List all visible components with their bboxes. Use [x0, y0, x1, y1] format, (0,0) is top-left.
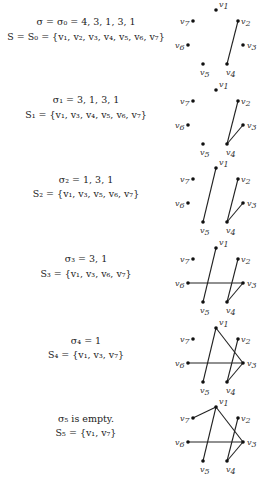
vertex-label-v7: v7 [180, 335, 191, 346]
vertex-label-v5: v5 [200, 306, 210, 317]
vertex-label-v1: v1 [219, 397, 229, 408]
vertex-v6 [186, 43, 190, 47]
vertex-v6 [186, 123, 190, 127]
vertex-v4 [225, 142, 229, 146]
vertex-label-v1: v1 [219, 0, 229, 11]
set-label: S₄ = {v₁, v₃, v₇} [0, 348, 172, 362]
vertex-label-v6: v6 [175, 359, 185, 370]
vertex-v2 [236, 416, 240, 420]
vertex-label-v2: v2 [241, 414, 251, 425]
vertex-label-v7: v7 [180, 255, 191, 266]
vertex-v6 [186, 201, 190, 205]
vertex-label-v6: v6 [175, 199, 185, 210]
vertex-label-v4: v4 [226, 306, 236, 317]
edge-v1-v5 [203, 328, 216, 382]
set-label: S₃ = {v₁, v₃, v₆, v₇} [0, 267, 172, 281]
vertex-v3 [241, 361, 245, 365]
vertex-label-v5: v5 [200, 386, 210, 397]
vertex-label-v3: v3 [247, 199, 257, 210]
vertex-v2 [236, 177, 240, 181]
vertex-label-v3: v3 [247, 279, 257, 290]
vertex-v6 [186, 281, 190, 285]
vertex-label-v1: v1 [219, 318, 229, 329]
vertex-v3 [241, 201, 245, 205]
sequence-label: σ₁ = 3, 1, 3, 1 [0, 93, 172, 107]
vertex-label-v1: v1 [219, 238, 229, 249]
step-0: σ = σ₀ = 4, 3, 1, 3, 1 S = S₀ = {v₁, v₂,… [0, 0, 266, 80]
vertex-label-v2: v2 [241, 175, 251, 186]
vertex-v7 [191, 19, 195, 23]
vertex-v4 [225, 62, 229, 66]
graph-step-5: v1v2v3v4v5v6v7 [170, 397, 266, 477]
vertex-label-v3: v3 [247, 438, 257, 449]
vertex-label-v3: v3 [247, 359, 257, 370]
graph-step-1: v1v2v3v4v5v6v7 [170, 80, 266, 160]
vertex-v6 [186, 361, 190, 365]
vertex-label-v5: v5 [200, 226, 210, 237]
vertex-label-v2: v2 [241, 255, 251, 266]
sequence-label: σ₄ = 1 [0, 334, 172, 348]
set-label: S₂ = {v₁, v₃, v₅, v₆, v₇} [0, 187, 172, 201]
vertex-v7 [191, 337, 195, 341]
vertex-v4 [225, 380, 229, 384]
vertex-label-v6: v6 [175, 121, 185, 132]
sequence-label: σ₃ = 3, 1 [0, 252, 172, 266]
edge-v1-v5 [203, 248, 216, 302]
vertex-label-v6: v6 [175, 41, 185, 52]
vertex-v4 [225, 459, 229, 463]
vertex-v6 [186, 440, 190, 444]
step-4: σ₄ = 1 S₄ = {v₁, v₃, v₇} v1v2v3v4v5v6v7 [0, 318, 266, 398]
vertex-label-v6: v6 [175, 279, 185, 290]
vertex-v5 [201, 300, 205, 304]
vertex-v1 [214, 8, 218, 12]
vertex-v3 [241, 440, 245, 444]
vertex-v4 [225, 220, 229, 224]
vertex-label-v1: v1 [219, 80, 229, 91]
vertex-v5 [201, 459, 205, 463]
vertex-label-v2: v2 [241, 97, 251, 108]
vertex-v3 [241, 43, 245, 47]
vertex-v5 [201, 142, 205, 146]
vertex-label-v7: v7 [180, 97, 191, 108]
step-3: σ₃ = 3, 1 S₃ = {v₁, v₃, v₆, v₇} v1v2v3v4… [0, 238, 266, 318]
vertex-label-v4: v4 [226, 226, 236, 237]
vertex-v3 [241, 123, 245, 127]
vertex-v7 [191, 99, 195, 103]
graph-step-3: v1v2v3v4v5v6v7 [170, 238, 266, 318]
step-1: σ₁ = 3, 1, 3, 1 S₁ = {v₁, v₃, v₄, v₅, v₆… [0, 80, 266, 160]
sequence-label: σ₅ is empty. [0, 412, 172, 426]
sequence-label: σ₂ = 1, 3, 1 [0, 173, 172, 187]
vertex-label-v3: v3 [247, 41, 257, 52]
edge-v1-v5 [203, 168, 216, 222]
vertex-label-v4: v4 [226, 386, 236, 397]
edge-v2-v4 [227, 21, 238, 64]
vertex-v7 [191, 177, 195, 181]
vertex-label-v5: v5 [200, 68, 210, 79]
vertex-v1 [214, 88, 218, 92]
vertex-v2 [236, 19, 240, 23]
vertex-label-v2: v2 [241, 335, 251, 346]
set-label: S₁ = {v₁, v₃, v₄, v₅, v₆, v₇} [0, 108, 172, 122]
vertex-v7 [191, 257, 195, 261]
vertex-label-v7: v7 [180, 414, 191, 425]
vertex-label-v5: v5 [200, 465, 210, 476]
edge-v1-v5 [203, 407, 216, 461]
vertex-v5 [201, 220, 205, 224]
vertex-v2 [236, 337, 240, 341]
graph-step-0: v1v2v3v4v5v6v7 [170, 0, 266, 80]
vertex-v5 [201, 62, 205, 66]
vertex-v4 [225, 300, 229, 304]
vertex-label-v1: v1 [219, 158, 229, 169]
edge-v1-v3 [216, 407, 243, 442]
vertex-label-v4: v4 [226, 465, 236, 476]
vertex-v3 [241, 281, 245, 285]
vertex-v1 [214, 326, 218, 330]
graph-step-2: v1v2v3v4v5v6v7 [170, 158, 266, 238]
set-label: S = S₀ = {v₁, v₂, v₃, v₄, v₅, v₆, v₇} [0, 30, 172, 44]
step-5: σ₅ is empty. S₅ = {v₁, v₇} v1v2v3v4v5v6v… [0, 397, 266, 477]
sequence-label: σ = σ₀ = 4, 3, 1, 3, 1 [0, 15, 172, 29]
edge-v7-v1 [193, 407, 216, 418]
vertex-v1 [214, 405, 218, 409]
vertex-v1 [214, 166, 218, 170]
vertex-label-v7: v7 [180, 17, 191, 28]
